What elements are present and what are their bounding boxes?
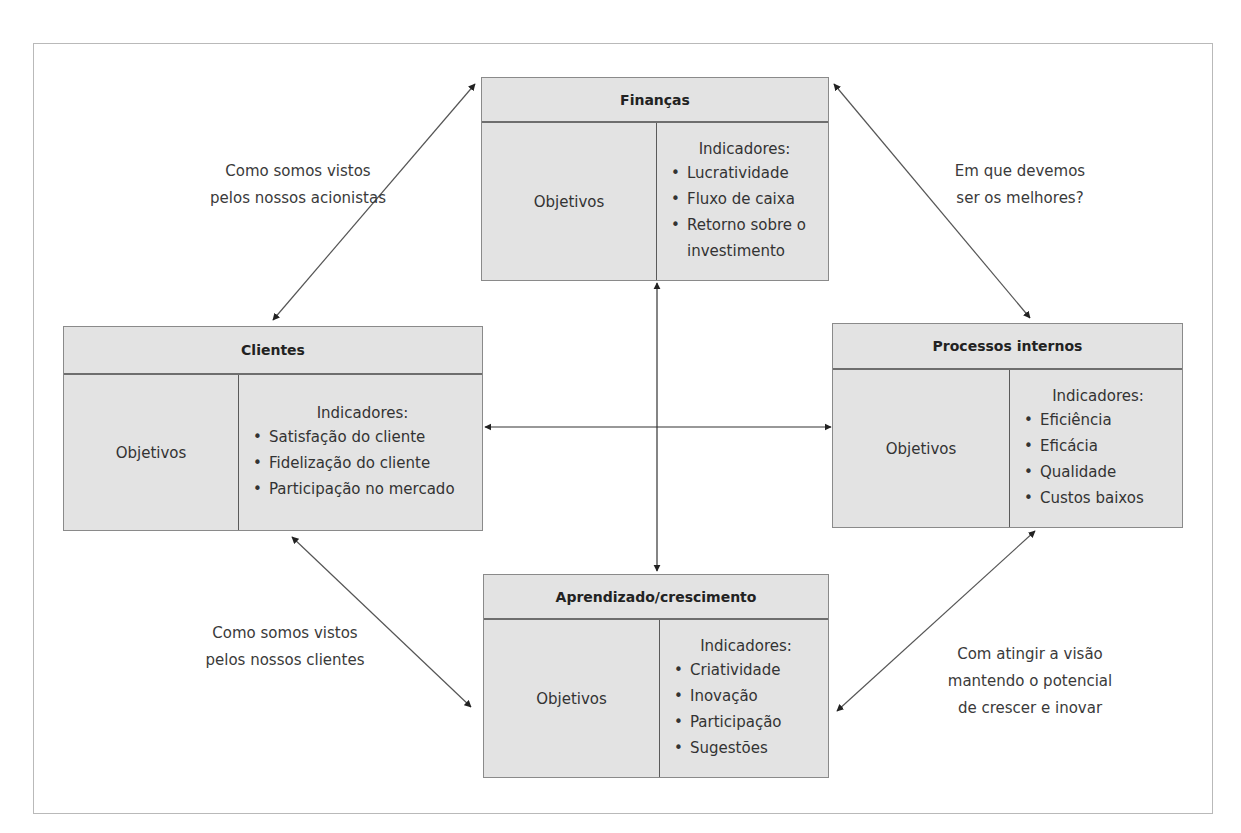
indicator-item: Fluxo de caixa	[669, 186, 828, 212]
perspective-financas: Finanças Objetivos Indicadores: Lucrativ…	[481, 77, 829, 281]
indicators-title: Indicadores:	[251, 404, 482, 422]
objectives-label: Objetivos	[833, 370, 1010, 527]
indicator-item: Eficácia	[1022, 433, 1182, 459]
indicators-panel: Indicadores: Eficiência Eficácia Qualida…	[1010, 370, 1182, 527]
indicator-item: Criatividade	[672, 657, 828, 683]
note-top-left: Como somos vistos pelos nossos acionista…	[178, 158, 418, 212]
note-line: de crescer e inovar	[930, 695, 1130, 722]
perspective-title: Processos internos	[833, 324, 1182, 370]
objectives-label: Objetivos	[482, 123, 657, 280]
perspective-title: Finanças	[482, 78, 828, 123]
indicator-item: Satisfação do cliente	[251, 424, 482, 450]
note-line: Em que devemos	[930, 158, 1110, 185]
note-line: pelos nossos clientes	[175, 647, 395, 674]
indicator-item: Participação	[672, 709, 828, 735]
note-line: Com atingir a visão	[930, 641, 1130, 668]
indicator-item: Sugestões	[672, 735, 828, 761]
objectives-label: Objetivos	[64, 375, 239, 530]
indicator-item: Qualidade	[1022, 459, 1182, 485]
note-line: ser os melhores?	[930, 185, 1110, 212]
indicators-list: Eficiência Eficácia Qualidade Custos bai…	[1022, 407, 1182, 511]
perspective-title: Aprendizado/crescimento	[484, 575, 828, 620]
indicator-item: Lucratividade	[669, 160, 828, 186]
indicators-panel: Indicadores: Satisfação do cliente Fidel…	[239, 375, 482, 530]
indicators-list: Criatividade Inovação Participação Suges…	[672, 657, 828, 761]
note-top-right: Em que devemos ser os melhores?	[930, 158, 1110, 212]
indicator-item: Inovação	[672, 683, 828, 709]
perspective-title: Clientes	[64, 327, 482, 375]
perspective-clientes: Clientes Objetivos Indicadores: Satisfaç…	[63, 326, 483, 531]
indicators-title: Indicadores:	[669, 140, 828, 158]
note-line: pelos nossos acionistas	[178, 185, 418, 212]
objectives-label: Objetivos	[484, 620, 660, 777]
note-line: mantendo o potencial	[930, 668, 1130, 695]
indicators-list: Satisfação do cliente Fidelização do cli…	[251, 424, 482, 502]
indicator-item: Fidelização do cliente	[251, 450, 482, 476]
indicators-panel: Indicadores: Criatividade Inovação Parti…	[660, 620, 828, 777]
indicator-item: Participação no mercado	[251, 476, 482, 502]
indicators-panel: Indicadores: Lucratividade Fluxo de caix…	[657, 123, 828, 280]
note-bottom-left: Como somos vistos pelos nossos clientes	[175, 620, 395, 674]
note-line: Como somos vistos	[175, 620, 395, 647]
indicators-title: Indicadores:	[672, 637, 828, 655]
indicator-item: Custos baixos	[1022, 485, 1182, 511]
perspective-aprendizado-crescimento: Aprendizado/crescimento Objetivos Indica…	[483, 574, 829, 778]
indicators-title: Indicadores:	[1022, 387, 1182, 405]
indicator-item: Retorno sobre o investimento	[669, 212, 827, 264]
perspective-processos-internos: Processos internos Objetivos Indicadores…	[832, 323, 1183, 528]
indicators-list: Lucratividade Fluxo de caixa Retorno sob…	[669, 160, 828, 264]
note-bottom-right: Com atingir a visão mantendo o potencial…	[930, 641, 1130, 722]
indicator-item: Eficiência	[1022, 407, 1182, 433]
note-line: Como somos vistos	[178, 158, 418, 185]
